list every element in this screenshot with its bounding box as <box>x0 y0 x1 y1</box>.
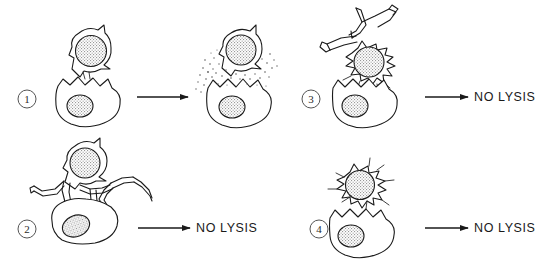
panel-1-killer-cell <box>69 25 111 77</box>
panel-4-group <box>328 158 468 258</box>
panel-4-target-cell <box>330 209 395 258</box>
panel-2-outcome-label: NO LYSIS <box>196 221 258 235</box>
panel-4-killer-cell <box>328 158 394 209</box>
panel-2-target-cell <box>52 198 118 244</box>
panel-1-target-cell <box>56 77 121 127</box>
panel-4-number: 4 <box>310 220 328 238</box>
panel-1-number: 1 <box>18 90 36 108</box>
panel-3-antibodies <box>320 5 398 52</box>
panel-2-killer-cell <box>63 138 107 189</box>
panel-4-outcome-label: NO LYSIS <box>474 221 536 235</box>
panel-1-lysis-scene <box>195 25 277 128</box>
panel-1-group <box>56 25 278 128</box>
panel-3-number: 3 <box>302 90 320 108</box>
panel-2-number: 2 <box>18 220 36 238</box>
panel-2-group <box>30 138 190 244</box>
panel-3-target-cell <box>333 79 398 128</box>
panel-3-group <box>320 5 468 128</box>
panel-3-outcome-label: NO LYSIS <box>474 90 536 104</box>
